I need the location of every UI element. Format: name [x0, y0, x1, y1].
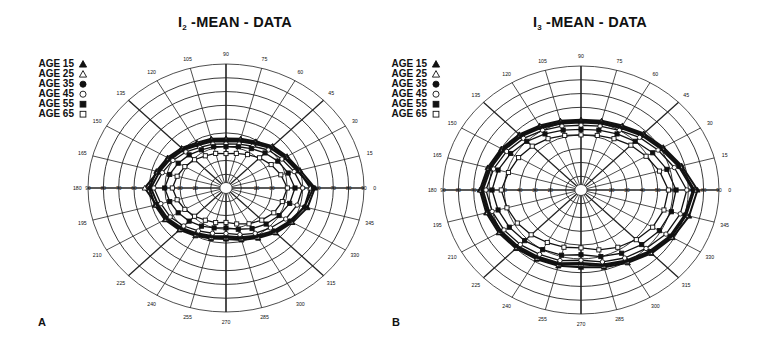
radial-tick-label: 70 — [471, 188, 477, 193]
filled-square-marker-icon — [168, 172, 172, 176]
filled-square-marker-icon — [651, 151, 655, 155]
open-circle-marker-icon — [672, 165, 676, 169]
filled-square-marker-icon — [496, 208, 500, 212]
angle-tick-label: 150 — [93, 118, 102, 124]
angle-tick-label: 180 — [428, 187, 437, 193]
open-square-marker-icon — [595, 133, 599, 137]
open-triangle-icon — [78, 69, 88, 79]
filled-square-marker-icon — [559, 253, 563, 257]
angle-tick-label: 105 — [183, 56, 192, 62]
radial-tick-label: 80 — [456, 188, 462, 193]
open-square-marker-icon — [247, 222, 251, 226]
angle-tick-label: 120 — [147, 69, 156, 75]
filled-square-marker-icon — [599, 254, 603, 258]
angle-tick-label: 330 — [350, 252, 359, 258]
open-circle-marker-icon — [210, 231, 214, 235]
open-square-marker-icon — [644, 154, 648, 158]
polar-chart-b: 0153045607590105120135150165180195210225… — [378, 0, 757, 342]
open-square-icon — [431, 109, 441, 119]
filled-square-marker-icon — [293, 186, 297, 190]
radial-tick-label: 60 — [131, 186, 137, 191]
angle-tick-label: 225 — [472, 282, 481, 288]
filled-square-marker-icon — [199, 224, 203, 228]
filled-square-marker-icon — [509, 151, 513, 155]
filled-square-marker-icon — [277, 213, 281, 217]
angle-tick-label: 300 — [651, 303, 660, 309]
radial-tick-label: 20 — [609, 188, 615, 193]
filled-square-marker-icon — [176, 211, 180, 215]
filled-square-marker-icon — [633, 139, 637, 143]
open-circle-marker-icon — [600, 260, 604, 264]
angle-tick-label: 75 — [617, 58, 623, 64]
grid-spoke — [228, 68, 262, 182]
open-square-marker-icon — [80, 111, 86, 117]
legend-label: AGE 65 — [38, 109, 74, 119]
open-square-marker-icon — [666, 188, 670, 192]
open-square-marker-icon — [214, 221, 218, 225]
filled-circle-marker-icon — [302, 205, 306, 209]
radial-tick-label: 20 — [254, 186, 260, 191]
radial-tick-label: 30 — [177, 186, 183, 191]
grid-spoke — [157, 193, 223, 296]
open-square-marker-icon — [529, 233, 533, 237]
filled-square-marker-icon — [525, 139, 529, 143]
filled-square-marker-icon — [199, 148, 203, 152]
open-circle-marker-icon — [685, 188, 689, 192]
open-square-marker-icon — [545, 240, 549, 244]
open-circle-marker-icon — [168, 215, 172, 219]
open-triangle-marker-icon — [432, 71, 439, 77]
open-circle-marker-icon — [238, 232, 242, 236]
angle-tick-label: 60 — [297, 69, 303, 75]
angle-tick-label: 135 — [472, 92, 481, 98]
open-square-marker-icon — [192, 214, 196, 218]
angle-tick-label: 210 — [93, 252, 102, 258]
filled-circle-icon — [78, 79, 88, 89]
angle-tick-label: 255 — [183, 314, 192, 320]
radial-tick-label: 90 — [440, 188, 446, 193]
open-circle-marker-icon — [80, 91, 86, 97]
legend-item: AGE 65 — [391, 109, 441, 119]
open-circle-marker-icon — [491, 167, 495, 171]
filled-square-marker-icon — [236, 145, 240, 149]
filled-square-marker-icon — [224, 145, 228, 149]
angle-tick-label: 345 — [365, 220, 374, 226]
open-square-marker-icon — [597, 248, 601, 252]
open-square-marker-icon — [234, 151, 238, 155]
filled-circle-icon — [431, 79, 441, 89]
open-square-marker-icon — [517, 156, 521, 160]
filled-square-marker-icon — [597, 128, 601, 132]
angle-tick-label: 210 — [448, 254, 457, 260]
angle-tick-label: 285 — [260, 314, 269, 320]
open-square-marker-icon — [279, 173, 283, 177]
legend-label: AGE 65 — [391, 109, 427, 119]
angle-tick-label: 195 — [433, 222, 442, 228]
filled-circle-marker-icon — [677, 164, 681, 168]
open-circle-marker-icon — [579, 123, 583, 127]
open-square-marker-icon — [629, 143, 633, 147]
filled-square-marker-icon — [264, 222, 268, 226]
legend-b: AGE 15AGE 25AGE 35AGE 45AGE 55AGE 65 — [391, 59, 441, 119]
filled-circle-marker-icon — [80, 81, 86, 87]
open-square-marker-icon — [505, 206, 509, 210]
open-circle-marker-icon — [160, 170, 164, 174]
angle-tick-label: 240 — [147, 301, 156, 307]
angle-tick-label: 300 — [296, 301, 305, 307]
filled-square-marker-icon — [490, 188, 494, 192]
angle-tick-label: 120 — [502, 71, 511, 77]
filled-square-marker-icon — [288, 201, 292, 205]
filled-square-marker-icon — [168, 199, 172, 203]
open-square-marker-icon — [235, 222, 239, 226]
angle-tick-label: 330 — [705, 254, 714, 260]
filled-square-marker-icon — [236, 227, 240, 231]
open-circle-marker-icon — [159, 201, 163, 205]
radial-tick-label: 40 — [517, 188, 523, 193]
angle-tick-label: 270 — [222, 319, 231, 325]
angle-tick-label: 255 — [538, 316, 547, 322]
radial-tick-label: 40 — [640, 188, 646, 193]
open-square-marker-icon — [530, 144, 534, 148]
filled-square-marker-icon — [507, 225, 511, 229]
filled-square-marker-icon — [80, 101, 86, 107]
filled-square-marker-icon — [212, 145, 216, 149]
series-age-15 — [477, 117, 700, 269]
radial-tick-label: 90 — [85, 186, 91, 191]
